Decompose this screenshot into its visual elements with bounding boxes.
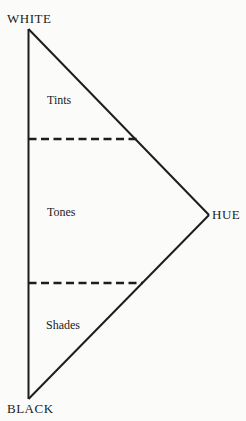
tints-region-label: Tints	[47, 94, 71, 106]
hue-vertex-label: HUE	[212, 208, 240, 221]
black-vertex-label: BLACK	[7, 402, 54, 415]
color-triangle-diagram: WHITE HUE BLACK Tints Tones Shades	[0, 0, 246, 421]
tones-region-label: Tones	[47, 206, 76, 218]
white-vertex-label: WHITE	[7, 12, 51, 25]
triangle-lower-edge	[29, 215, 210, 399]
shades-region-label: Shades	[46, 319, 80, 331]
triangle-upper-edge	[29, 29, 210, 215]
triangle-drawing	[0, 0, 246, 421]
